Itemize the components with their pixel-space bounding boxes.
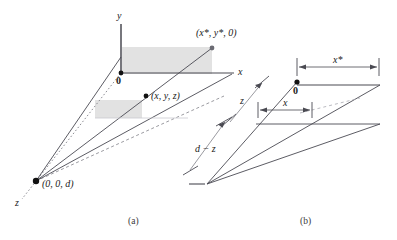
- y-axis-label: y: [117, 11, 121, 21]
- origin-label: 0: [116, 76, 121, 86]
- center-of-projection-dot: [33, 178, 39, 184]
- image-point-dot: [210, 46, 215, 51]
- image-point-label: (x*, y*, 0): [196, 28, 237, 38]
- x-dimension-label: x: [283, 98, 287, 108]
- z-dimension-label: z: [240, 96, 244, 106]
- z-axis-label: z: [15, 198, 19, 208]
- origin-b-label: 0: [293, 86, 298, 96]
- construction-dash-b: [300, 98, 360, 113]
- x-star-dimension-label: x*: [333, 55, 342, 65]
- perspective-projection-figure: y x z 0 (x, y, z) (x*, y*, 0) (0, 0, d) …: [0, 0, 397, 240]
- projection-ray-x-edge: [36, 74, 232, 181]
- d-minus-z-dimension-label: d − z: [195, 144, 216, 154]
- center-of-projection-label: (0, 0, d): [42, 179, 74, 189]
- image-plane-shading: [122, 47, 212, 74]
- projection-ray-top: [36, 57, 121, 181]
- object-point-label: (x, y, z): [151, 91, 180, 101]
- object-plane-shading: [95, 100, 142, 118]
- origin-b-dot: [294, 79, 299, 84]
- caption-a: (a): [128, 216, 139, 226]
- caption-b: (b): [300, 216, 311, 226]
- x-axis-label: x: [238, 67, 242, 77]
- object-point-dot: [144, 94, 149, 99]
